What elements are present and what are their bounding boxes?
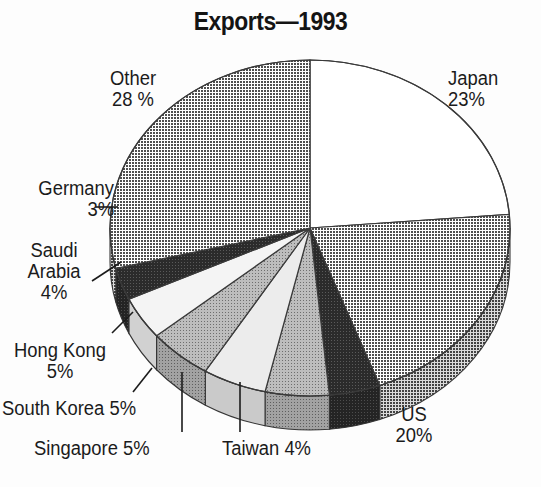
slice-label-south-korea: South Korea 5% <box>2 398 177 419</box>
slice-label-japan: Japan 23% <box>448 68 529 110</box>
pie-slice-side-shade <box>265 392 329 430</box>
slice-label-us: US 20% <box>372 404 457 446</box>
slice-label-saudi-arabia: Saudi Arabia 4% <box>12 240 97 303</box>
slice-label-hong-kong: Hong Kong 5% <box>7 340 114 382</box>
slice-label-taiwan: Taiwan 4% <box>222 438 351 459</box>
pie-chart-figure: Exports—1993 <box>0 0 541 487</box>
leader-line-south-korea <box>133 368 152 392</box>
slice-label-singapore: Singapore 5% <box>34 438 196 459</box>
pie-slices <box>110 60 510 430</box>
slice-label-other: Other 28 % <box>82 68 183 110</box>
slice-label-germany: Germany 3% <box>11 178 114 220</box>
